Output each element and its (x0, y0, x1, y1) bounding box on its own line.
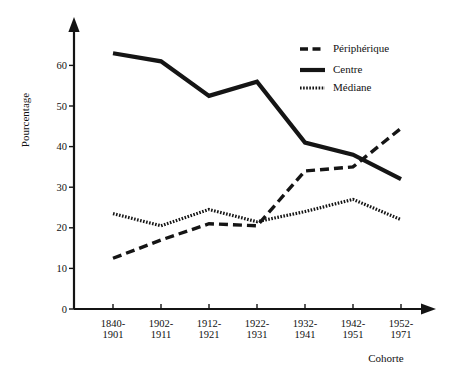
y-tick-label: 60 (57, 60, 68, 71)
y-tick-label: 20 (57, 222, 68, 233)
x-tick-label-line1: 1952- (389, 318, 414, 329)
y-axis (68, 17, 79, 309)
x-tick-label-line2: 1971 (391, 329, 412, 340)
x-tick-label-line1: 1902- (149, 318, 174, 329)
y-axis-arrow-icon (68, 17, 79, 32)
y-ticks: 0 10 20 30 40 50 60 (57, 60, 75, 315)
legend-label-mediane: Médiane (333, 81, 372, 93)
x-tick-label-line1: 1922- (245, 318, 270, 329)
y-tick-label: 50 (57, 101, 68, 112)
legend-label-centre: Centre (333, 63, 362, 75)
line-chart: 0 10 20 30 40 50 60 Pourcentage (0, 0, 458, 381)
x-tick-label-line1: 1840- (101, 318, 126, 329)
y-tick-label: 10 (57, 263, 68, 274)
x-axis-title: Cohorte (368, 352, 404, 364)
x-tick-label-line1: 1932- (293, 318, 318, 329)
y-tick-label: 30 (57, 182, 68, 193)
y-tick-label: 0 (62, 304, 67, 315)
x-axis-arrow-icon (421, 303, 436, 314)
x-tick-label-line2: 1951 (343, 329, 364, 340)
x-tick-labels: 1840- 1901 1902- 1911 1912- 1921 1922- 1… (101, 318, 414, 340)
x-tick-label-line2: 1901 (103, 329, 124, 340)
legend: Périphérique Centre Médiane (300, 42, 389, 93)
chart-canvas: 0 10 20 30 40 50 60 Pourcentage (0, 0, 458, 381)
x-tick-label-line2: 1931 (247, 329, 268, 340)
x-tick-label-line2: 1941 (295, 329, 316, 340)
x-axis (74, 303, 436, 314)
x-tick-label-line1: 1942- (341, 318, 366, 329)
series-line-mediane (113, 199, 401, 225)
legend-label-peripherique: Périphérique (333, 42, 389, 54)
y-axis-title: Pourcentage (19, 93, 31, 147)
y-tick-label: 40 (57, 141, 68, 152)
series-line-peripherique (113, 128, 401, 258)
x-tick-label-line2: 1921 (199, 329, 220, 340)
x-tick-label-line2: 1911 (151, 329, 172, 340)
x-tick-label-line1: 1912- (197, 318, 222, 329)
